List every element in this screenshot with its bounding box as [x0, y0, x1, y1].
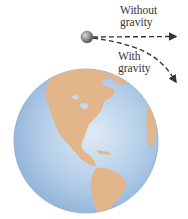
straight-path-without-gravity	[93, 37, 176, 38]
label-without-gravity: Without gravity	[120, 4, 157, 28]
label-with-gravity-line1: With	[118, 50, 151, 62]
ball	[81, 31, 93, 43]
gravity-diagram	[0, 0, 188, 219]
label-without-gravity-line2: gravity	[120, 16, 157, 28]
label-with-gravity: With gravity	[118, 50, 151, 74]
earth-globe	[14, 68, 158, 216]
label-without-gravity-line1: Without	[120, 4, 157, 16]
label-with-gravity-line2: gravity	[118, 62, 151, 74]
